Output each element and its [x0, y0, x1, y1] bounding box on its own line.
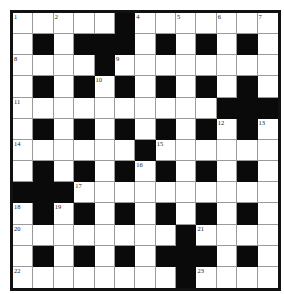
grid-cell[interactable] — [135, 76, 155, 97]
grid-cell[interactable]: 8 — [13, 55, 33, 76]
grid-cell[interactable] — [95, 98, 115, 119]
grid-cell[interactable] — [95, 119, 115, 140]
grid-cell[interactable]: 7 — [258, 13, 278, 34]
grid-cell[interactable] — [196, 13, 216, 34]
grid-cell[interactable] — [74, 267, 94, 288]
grid-cell[interactable] — [33, 98, 53, 119]
grid-cell[interactable] — [156, 182, 176, 203]
grid-cell[interactable]: 12 — [217, 119, 237, 140]
grid-cell[interactable] — [74, 13, 94, 34]
grid-cell[interactable] — [95, 182, 115, 203]
grid-cell[interactable] — [135, 267, 155, 288]
grid-cell[interactable] — [217, 140, 237, 161]
grid-cell[interactable] — [95, 13, 115, 34]
grid-cell[interactable] — [258, 225, 278, 246]
grid-cell[interactable] — [217, 203, 237, 224]
grid-cell[interactable] — [237, 225, 257, 246]
grid-cell[interactable] — [74, 140, 94, 161]
grid-cell[interactable] — [196, 182, 216, 203]
grid-cell[interactable] — [54, 225, 74, 246]
grid-cell[interactable] — [13, 76, 33, 97]
grid-cell[interactable]: 18 — [13, 203, 33, 224]
grid-cell[interactable] — [13, 119, 33, 140]
grid-cell[interactable] — [156, 13, 176, 34]
grid-cell[interactable] — [95, 246, 115, 267]
grid-cell[interactable] — [258, 140, 278, 161]
grid-cell[interactable] — [217, 55, 237, 76]
grid-cell[interactable] — [258, 55, 278, 76]
grid-cell[interactable] — [54, 246, 74, 267]
grid-cell[interactable] — [176, 55, 196, 76]
grid-cell[interactable] — [33, 13, 53, 34]
grid-cell[interactable] — [176, 182, 196, 203]
grid-cell[interactable] — [33, 55, 53, 76]
grid-cell[interactable] — [74, 55, 94, 76]
grid-cell[interactable] — [135, 182, 155, 203]
grid-cell[interactable] — [176, 34, 196, 55]
grid-cell[interactable] — [54, 119, 74, 140]
grid-cell[interactable] — [156, 55, 176, 76]
grid-cell[interactable] — [237, 13, 257, 34]
grid-cell[interactable] — [176, 119, 196, 140]
grid-cell[interactable] — [156, 267, 176, 288]
grid-cell[interactable] — [176, 76, 196, 97]
grid-cell[interactable] — [176, 161, 196, 182]
grid-cell[interactable]: 15 — [156, 140, 176, 161]
grid-cell[interactable] — [237, 267, 257, 288]
grid-cell[interactable] — [13, 34, 33, 55]
grid-cell[interactable] — [95, 203, 115, 224]
grid-cell[interactable] — [54, 34, 74, 55]
grid-cell[interactable]: 4 — [135, 13, 155, 34]
grid-cell[interactable]: 20 — [13, 225, 33, 246]
grid-cell[interactable] — [237, 182, 257, 203]
grid-cell[interactable] — [156, 98, 176, 119]
grid-cell[interactable] — [95, 140, 115, 161]
grid-cell[interactable]: 1 — [13, 13, 33, 34]
grid-cell[interactable] — [258, 161, 278, 182]
grid-cell[interactable] — [115, 225, 135, 246]
grid-cell[interactable]: 13 — [258, 119, 278, 140]
grid-cell[interactable] — [54, 98, 74, 119]
grid-cell[interactable]: 23 — [196, 267, 216, 288]
grid-cell[interactable] — [54, 76, 74, 97]
grid-cell[interactable]: 2 — [54, 13, 74, 34]
grid-cell[interactable] — [135, 225, 155, 246]
grid-cell[interactable]: 17 — [74, 182, 94, 203]
grid-cell[interactable] — [196, 140, 216, 161]
grid-cell[interactable] — [95, 267, 115, 288]
grid-cell[interactable] — [74, 225, 94, 246]
grid-cell[interactable] — [135, 55, 155, 76]
grid-cell[interactable] — [196, 98, 216, 119]
grid-cell[interactable] — [115, 98, 135, 119]
grid-cell[interactable] — [196, 55, 216, 76]
grid-cell[interactable] — [258, 76, 278, 97]
grid-cell[interactable]: 16 — [135, 161, 155, 182]
grid-cell[interactable]: 6 — [217, 13, 237, 34]
grid-cell[interactable] — [217, 182, 237, 203]
grid-cell[interactable] — [33, 140, 53, 161]
grid-cell[interactable]: 10 — [95, 76, 115, 97]
grid-cell[interactable] — [135, 246, 155, 267]
grid-cell[interactable] — [258, 182, 278, 203]
grid-cell[interactable] — [135, 34, 155, 55]
grid-cell[interactable] — [258, 34, 278, 55]
grid-cell[interactable] — [217, 225, 237, 246]
grid-cell[interactable] — [258, 267, 278, 288]
grid-cell[interactable] — [54, 161, 74, 182]
grid-cell[interactable] — [95, 225, 115, 246]
grid-cell[interactable] — [54, 55, 74, 76]
grid-cell[interactable]: 19 — [54, 203, 74, 224]
grid-cell[interactable]: 9 — [115, 55, 135, 76]
grid-cell[interactable] — [54, 140, 74, 161]
grid-cell[interactable]: 11 — [13, 98, 33, 119]
grid-cell[interactable] — [115, 267, 135, 288]
grid-cell[interactable] — [135, 119, 155, 140]
grid-cell[interactable] — [237, 55, 257, 76]
grid-cell[interactable] — [74, 98, 94, 119]
grid-cell[interactable] — [217, 267, 237, 288]
grid-cell[interactable] — [176, 98, 196, 119]
grid-cell[interactable] — [176, 203, 196, 224]
grid-cell[interactable] — [258, 246, 278, 267]
grid-cell[interactable] — [156, 225, 176, 246]
grid-cell[interactable]: 22 — [13, 267, 33, 288]
